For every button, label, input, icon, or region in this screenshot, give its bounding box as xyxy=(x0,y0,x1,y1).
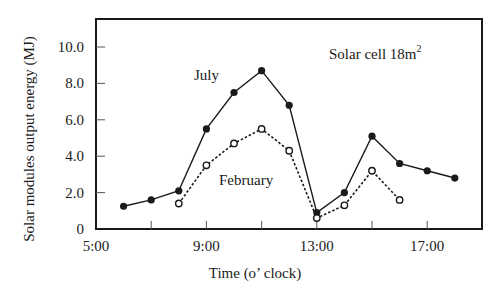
x-tick-label: 9:00 xyxy=(193,238,220,254)
data-point-february xyxy=(231,140,237,146)
data-point-july xyxy=(120,203,127,210)
line-chart: 02.04.06.08.010.0 5:009:0013:0017:00 Jul… xyxy=(0,0,502,300)
data-point-july xyxy=(203,125,210,132)
data-point-july xyxy=(451,174,458,181)
y-tick-label: 2.0 xyxy=(65,185,84,201)
data-point-february xyxy=(176,200,182,206)
data-point-july xyxy=(341,189,348,196)
data-point-july xyxy=(258,67,265,74)
y-axis: 02.04.06.08.010.0 xyxy=(58,39,105,237)
y-tick-label: 4.0 xyxy=(65,148,84,164)
x-tick-label: 13:00 xyxy=(300,238,334,254)
data-point-february xyxy=(341,202,347,208)
data-point-july xyxy=(286,102,293,109)
data-point-july xyxy=(368,133,375,140)
x-tick-label: 5:00 xyxy=(83,238,110,254)
data-point-july xyxy=(230,89,237,96)
data-point-july xyxy=(148,196,155,203)
y-tick-label: 6.0 xyxy=(65,112,84,128)
series-line-july xyxy=(124,71,455,213)
series-group xyxy=(120,67,458,221)
data-point-february xyxy=(314,215,320,221)
data-point-july xyxy=(424,167,431,174)
x-axis: 5:009:0013:0017:00 xyxy=(83,221,445,254)
y-tick-label: 8.0 xyxy=(65,75,84,91)
data-point-july xyxy=(175,187,182,194)
solar-cell-label: Solar cell 18m2 xyxy=(329,43,421,62)
x-tick-label: 17:00 xyxy=(410,238,444,254)
solar-cell-text: Solar cell 18m xyxy=(329,46,417,62)
february-label: February xyxy=(219,172,274,188)
data-point-february xyxy=(396,197,402,203)
series-line-february xyxy=(179,129,400,218)
y-tick-label: 10.0 xyxy=(58,39,84,55)
solar-cell-superscript: 2 xyxy=(416,43,421,54)
data-point-february xyxy=(369,168,375,174)
y-tick-label: 0 xyxy=(77,221,85,237)
x-axis-title: Time (o’ clock) xyxy=(209,265,301,282)
data-point-february xyxy=(203,162,209,168)
y-axis-title: Solar modules output energy (MJ) xyxy=(21,36,38,242)
data-point-february xyxy=(286,148,292,154)
july-label: July xyxy=(194,67,220,83)
data-point-july xyxy=(396,160,403,167)
data-point-february xyxy=(258,126,264,132)
